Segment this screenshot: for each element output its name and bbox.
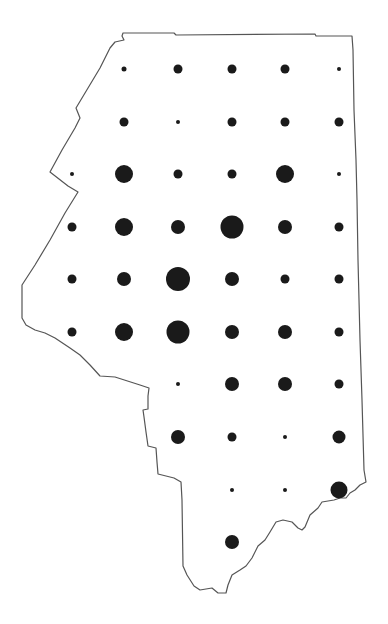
symbol-dot [278, 377, 292, 391]
symbol-dot [225, 325, 239, 339]
symbol-dot [283, 488, 287, 492]
symbol-dot [281, 65, 290, 74]
symbol-dot [68, 328, 77, 337]
symbol-dot [335, 380, 344, 389]
symbol-dot [68, 223, 77, 232]
symbol-dot [115, 323, 133, 341]
proportional-symbols-layer [68, 65, 348, 550]
symbol-dot [228, 433, 237, 442]
symbol-dot [228, 65, 237, 74]
symbol-dot [337, 67, 341, 71]
symbol-dot [115, 165, 133, 183]
symbol-dot [115, 218, 133, 236]
symbol-dot [281, 118, 290, 127]
symbol-dot [230, 488, 234, 492]
symbol-dot [337, 172, 341, 176]
symbol-dot [278, 325, 292, 339]
symbol-dot [283, 435, 287, 439]
symbol-dot [225, 535, 239, 549]
symbol-dot [225, 377, 239, 391]
symbol-dot [225, 272, 239, 286]
symbol-dot [174, 170, 183, 179]
symbol-dot [276, 165, 294, 183]
symbol-dot [174, 65, 183, 74]
symbol-dot [228, 170, 237, 179]
symbol-dot [167, 321, 190, 344]
symbol-dot [68, 275, 77, 284]
symbol-dot [335, 328, 344, 337]
symbol-dot [281, 275, 290, 284]
symbol-dot [335, 223, 344, 232]
symbol-dot [122, 67, 127, 72]
symbol-dot [221, 216, 244, 239]
symbol-dot [335, 275, 344, 284]
symbol-dot [278, 220, 292, 234]
symbol-dot [120, 118, 129, 127]
symbol-dot [176, 382, 180, 386]
symbol-dot [70, 172, 74, 176]
symbol-dot [166, 267, 190, 291]
symbol-dot [171, 430, 185, 444]
symbol-dot [333, 431, 346, 444]
symbol-dot [117, 272, 131, 286]
symbol-dot [176, 120, 180, 124]
symbol-dot [228, 118, 237, 127]
county-outline [22, 33, 366, 593]
county-map [0, 0, 388, 624]
symbol-dot [335, 118, 344, 127]
symbol-dot [171, 220, 185, 234]
symbol-dot [331, 482, 348, 499]
